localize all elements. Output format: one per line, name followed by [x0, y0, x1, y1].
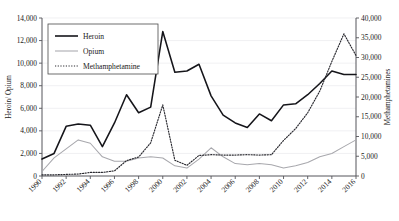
left-axis-tick-label: 8,000 — [20, 81, 37, 90]
x-axis-tick-label: 2014 — [316, 177, 333, 194]
x-axis-tick-label: 2016 — [340, 177, 357, 194]
left-axis-tick-label: 12,000 — [17, 36, 38, 45]
x-axis-tick-label: 2010 — [268, 177, 285, 194]
left-axis: 02,0004,0006,0008,00010,00012,00014,000 — [17, 14, 42, 181]
right-axis-tick-label: 25,000 — [361, 73, 382, 82]
x-axis-tick-label: 1998 — [123, 177, 140, 194]
left-axis-tick-label: 2,000 — [20, 149, 37, 158]
right-axis-tick-label: 10,000 — [361, 132, 382, 141]
right-axis-tick-label: 5,000 — [361, 152, 378, 161]
dual-axis-line-chart: 02,0004,0006,0008,00010,00012,00014,000 … — [0, 0, 399, 221]
right-axis-tick-label: 20,000 — [361, 93, 382, 102]
right-axis-tick-label: 0 — [361, 172, 365, 181]
left-axis-title: Heroin/ Opium — [5, 75, 13, 119]
x-axis-tick-label: 2006 — [220, 177, 237, 194]
chart-container: 02,0004,0006,0008,00010,00012,00014,000 … — [0, 0, 399, 221]
x-axis-tick-label: 2000 — [147, 177, 164, 194]
x-axis-tick-label: 1992 — [50, 177, 67, 194]
right-axis-title: Methamphetamines — [384, 68, 392, 125]
legend-label-opium: Opium — [83, 47, 104, 56]
legend-label-methamphetamine: Methamphetamine — [83, 62, 141, 71]
series-line-opium — [42, 140, 356, 172]
right-axis-tick-label: 35,000 — [361, 33, 382, 42]
right-axis-tick-label: 40,000 — [361, 14, 382, 23]
right-axis: 05,00010,00015,00020,00025,00030,00035,0… — [356, 14, 382, 181]
x-axis: 1990199219941996199820002002200420062008… — [26, 176, 357, 194]
x-axis-tick-label: 2002 — [171, 177, 188, 194]
left-axis-tick-label: 4,000 — [20, 126, 37, 135]
left-axis-tick-label: 6,000 — [20, 104, 37, 113]
right-axis-tick-label: 30,000 — [361, 53, 382, 62]
x-axis-tick-label: 1994 — [75, 177, 92, 194]
right-axis-tick-label: 15,000 — [361, 112, 382, 121]
left-axis-tick-label: 14,000 — [17, 14, 38, 23]
x-axis-tick-label: 1990 — [26, 177, 43, 194]
left-axis-tick-label: 10,000 — [17, 59, 38, 68]
x-axis-tick-label: 2004 — [195, 177, 212, 194]
legend-label-heroin: Heroin — [83, 32, 104, 41]
x-axis-tick-label: 2012 — [292, 177, 309, 194]
chart-legend: HeroinOpiumMethamphetamine — [48, 24, 158, 74]
x-axis-tick-label: 1996 — [99, 177, 116, 194]
x-axis-tick-label: 2008 — [244, 177, 261, 194]
